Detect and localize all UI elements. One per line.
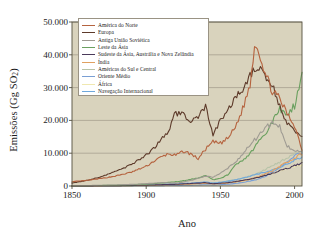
y-axis-tick-labels: 010.00020.00030.00040.00050.000 bbox=[20, 0, 68, 238]
legend-item-label: Américas do Sul e Central bbox=[98, 66, 156, 73]
legend-item: Sudeste da Ásia, Austrália e Nova Zelând… bbox=[82, 51, 205, 58]
legend-item-label: Sudeste da Ásia, Austrália e Nova Zelând… bbox=[98, 51, 194, 58]
legend-item: América do Norte bbox=[82, 22, 205, 29]
legend-color-swatch bbox=[82, 69, 95, 70]
legend-item: Antiga União Soviética bbox=[82, 37, 205, 44]
legend-color-swatch bbox=[82, 47, 95, 48]
legend-color-swatch bbox=[82, 76, 95, 77]
y-tick-label: 40.000 bbox=[24, 50, 68, 60]
legend-item-label: Navegação Internacional bbox=[98, 88, 153, 95]
legend-color-swatch bbox=[82, 32, 95, 33]
x-tick-label: 1850 bbox=[52, 190, 92, 200]
legend-item-label: Oriente Médio bbox=[98, 73, 130, 80]
y-axis-label-text: Emissões (Gg SO bbox=[8, 76, 19, 152]
legend-item-label: Europa bbox=[98, 29, 114, 36]
legend-color-swatch bbox=[82, 54, 95, 55]
legend-color-swatch bbox=[82, 84, 95, 85]
legend-item: Américas do Sul e Central bbox=[82, 66, 205, 73]
sulfur-emissions-line-chart: 010.00020.00030.00040.00050.000 18501900… bbox=[0, 0, 322, 238]
legend-item: Europa bbox=[82, 29, 205, 36]
legend-item: Navegação Internacional bbox=[82, 88, 205, 95]
legend-item-label: África bbox=[98, 81, 112, 88]
y-tick-label: 20.000 bbox=[24, 115, 68, 125]
x-axis-label: Ano bbox=[72, 218, 302, 229]
y-tick-label: 30.000 bbox=[24, 83, 68, 93]
legend-item-label: Antiga União Soviética bbox=[98, 37, 150, 44]
legend-item-label: Leste da Ásia bbox=[98, 44, 128, 51]
legend-item: África bbox=[82, 80, 205, 87]
legend-item-label: Índia bbox=[98, 59, 109, 66]
y-axis-label-subscript: 2 bbox=[11, 72, 20, 76]
y-tick-label: 50.000 bbox=[24, 17, 68, 27]
legend-color-swatch bbox=[82, 40, 95, 41]
chart-legend: América do NorteEuropaAntiga União Sovié… bbox=[78, 18, 209, 96]
legend-item: Índia bbox=[82, 58, 205, 65]
y-axis-label: Emissões (Gg SO2) bbox=[8, 35, 20, 185]
y-axis-label-close: ) bbox=[8, 68, 19, 72]
legend-item: Oriente Médio bbox=[82, 73, 205, 80]
x-tick-label: 2000 bbox=[275, 190, 315, 200]
legend-color-swatch bbox=[82, 25, 95, 26]
legend-color-swatch bbox=[82, 62, 95, 63]
legend-color-swatch bbox=[82, 91, 95, 92]
legend-item-label: América do Norte bbox=[98, 22, 138, 29]
y-tick-label: 10.000 bbox=[24, 148, 68, 158]
x-tick-label: 1950 bbox=[200, 190, 240, 200]
x-tick-label: 1900 bbox=[126, 190, 166, 200]
